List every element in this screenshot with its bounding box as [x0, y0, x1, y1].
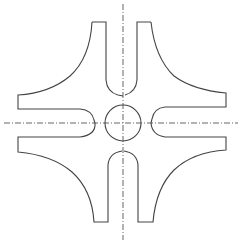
quadrant-top-left	[18, 22, 123, 123]
quadrant-bottom-left	[18, 123, 122, 222]
technical-drawing	[0, 0, 244, 247]
quadrant-bottom-right	[124, 123, 226, 222]
quadrant-top-right	[125, 22, 226, 123]
